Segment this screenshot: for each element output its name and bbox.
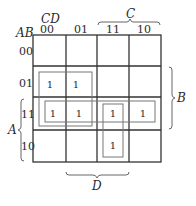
row-header-00: 00 — [19, 46, 33, 57]
kmap-grid — [33, 35, 161, 162]
cell-11-01: 1 — [74, 109, 84, 119]
row-header-11: 11 — [21, 109, 35, 120]
cell-11-00: 1 — [48, 109, 58, 119]
col-header-01: 01 — [74, 24, 88, 35]
cell-01-01: 1 — [71, 80, 81, 90]
col-header-00: 00 — [40, 24, 54, 35]
bracket-label-a: A — [8, 124, 17, 136]
d-brace — [66, 172, 129, 178]
bracket-label-c: C — [126, 8, 135, 20]
bracket-label-b: B — [177, 92, 186, 104]
row-var-label: AB — [16, 27, 33, 39]
col-header-11: 11 — [106, 24, 120, 35]
b-brace — [169, 67, 175, 129]
col-header-10: 10 — [137, 24, 151, 35]
cell-10-11: 1 — [108, 141, 118, 151]
row-header-10: 10 — [21, 141, 35, 152]
bracket-label-d: D — [92, 180, 102, 192]
cell-01-00: 1 — [45, 80, 55, 90]
cell-11-11: 1 — [108, 109, 118, 119]
cell-11-10: 1 — [138, 109, 148, 119]
row-header-01: 01 — [19, 78, 33, 89]
